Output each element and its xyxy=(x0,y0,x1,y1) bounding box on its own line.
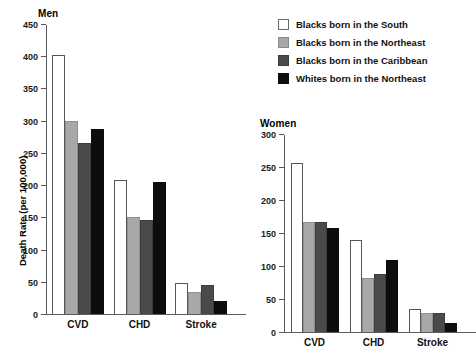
category-label: CHD xyxy=(129,319,151,330)
y-tick-men xyxy=(41,153,46,154)
y-tick-women xyxy=(279,233,284,234)
y-tick-label-women: 150 xyxy=(261,230,276,239)
bar xyxy=(114,180,127,314)
y-tick-label-men: 350 xyxy=(23,85,38,94)
legend-item: Blacks born in the South xyxy=(278,16,468,32)
x-axis-men xyxy=(46,314,246,315)
bar xyxy=(362,278,374,333)
y-tick-label-men: 450 xyxy=(23,21,38,30)
y-tick-label-women: 200 xyxy=(261,197,276,206)
bar-groups-women: CVDCHDStroke xyxy=(285,135,462,332)
y-tick-men xyxy=(41,24,46,25)
y-tick-men xyxy=(41,185,46,186)
y-tick-women xyxy=(279,200,284,201)
bar xyxy=(201,285,214,314)
y-tick-label-women: 250 xyxy=(261,164,276,173)
y-tick-label-men: 150 xyxy=(23,214,38,223)
bars xyxy=(175,25,227,314)
category-label: CHD xyxy=(363,337,385,348)
bar xyxy=(188,292,201,314)
bar xyxy=(421,313,433,332)
bar xyxy=(445,323,457,332)
y-tick-label-women: 100 xyxy=(261,263,276,272)
y-tick-men xyxy=(41,121,46,122)
bar-group: Stroke xyxy=(170,25,232,314)
bar xyxy=(153,182,166,314)
y-tick-women xyxy=(279,332,284,333)
bar xyxy=(65,121,78,314)
legend: Blacks born in the SouthBlacks born in t… xyxy=(278,16,468,88)
bars xyxy=(114,25,166,314)
bar xyxy=(303,222,315,332)
y-tick-label-women: 0 xyxy=(271,329,276,338)
legend-swatch-icon xyxy=(278,37,289,48)
bars xyxy=(52,25,104,314)
legend-label: Whites born in the Northeast xyxy=(296,73,426,84)
bar xyxy=(52,55,65,314)
y-tick-men xyxy=(41,88,46,89)
plot-area-women: 050100150200250300 CVDCHDStroke xyxy=(284,135,462,333)
y-tick-label-women: 50 xyxy=(266,296,276,305)
bars xyxy=(350,135,398,332)
y-tick-label-men: 0 xyxy=(33,311,38,320)
bar-group: CVD xyxy=(285,135,344,332)
bar xyxy=(214,301,227,314)
y-tick-women xyxy=(279,266,284,267)
y-tick-label-men: 250 xyxy=(23,149,38,158)
legend-item: Blacks born in the Northeast xyxy=(278,34,468,50)
bar xyxy=(140,220,153,314)
legend-item: Whites born in the Northeast xyxy=(278,70,468,86)
bar xyxy=(291,163,303,332)
plot-area-men: 050100150200250300350400450 CVDCHDStroke xyxy=(46,25,232,315)
y-tick-women xyxy=(279,167,284,168)
legend-swatch-icon xyxy=(278,19,289,30)
bar-group: Stroke xyxy=(403,135,462,332)
chart-title-women: Women xyxy=(260,118,296,129)
chart-panel-men: Men Death Rate (per 100,000) 05010015020… xyxy=(8,8,240,353)
category-label: CVD xyxy=(67,319,88,330)
bar-group: CHD xyxy=(109,25,171,314)
legend-swatch-icon xyxy=(278,73,289,84)
y-tick-men xyxy=(41,250,46,251)
y-tick-men xyxy=(41,314,46,315)
y-tick-men xyxy=(41,56,46,57)
category-label: CVD xyxy=(304,337,325,348)
bar xyxy=(386,260,398,332)
y-tick-women xyxy=(279,299,284,300)
bar xyxy=(433,313,445,332)
legend-swatch-icon xyxy=(278,55,289,66)
y-tick-men xyxy=(41,217,46,218)
y-tick-men xyxy=(41,282,46,283)
bar xyxy=(175,283,188,314)
y-tick-label-men: 50 xyxy=(28,278,38,287)
category-label: Stroke xyxy=(186,319,217,330)
bar xyxy=(315,222,327,332)
y-tick-label-men: 100 xyxy=(23,246,38,255)
bar-group: CVD xyxy=(47,25,109,314)
bar xyxy=(127,217,140,314)
legend-label: Blacks born in the South xyxy=(296,19,408,30)
y-tick-label-men: 400 xyxy=(23,53,38,62)
bar xyxy=(350,240,362,332)
legend-label: Blacks born in the Caribbean xyxy=(296,55,427,66)
y-tick-label-men: 300 xyxy=(23,117,38,126)
bars xyxy=(291,135,339,332)
y-tick-women xyxy=(279,134,284,135)
bar xyxy=(78,143,91,314)
bar-groups-men: CVDCHDStroke xyxy=(47,25,232,314)
legend-item: Blacks born in the Caribbean xyxy=(278,52,468,68)
y-tick-label-women: 300 xyxy=(261,131,276,140)
chart-panel-women: Women 050100150200250300 CVDCHDStroke xyxy=(250,118,470,353)
bar xyxy=(327,228,339,332)
y-tick-label-men: 200 xyxy=(23,182,38,191)
bar xyxy=(409,309,421,332)
legend-label: Blacks born in the Northeast xyxy=(296,37,425,48)
bar-group: CHD xyxy=(344,135,403,332)
x-axis-women xyxy=(284,332,476,333)
bars xyxy=(409,135,457,332)
bar xyxy=(91,129,104,314)
chart-title-men: Men xyxy=(38,8,58,19)
bar xyxy=(374,274,386,332)
category-label: Stroke xyxy=(417,337,448,348)
